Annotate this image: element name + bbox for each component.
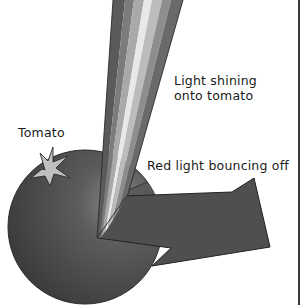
right-border-line xyxy=(298,0,300,305)
diagram-canvas: Light shining onto tomato Red light boun… xyxy=(0,0,307,305)
incoming-light-label-line1: Light shining xyxy=(174,73,257,88)
reflected-light-label: Red light bouncing off xyxy=(147,158,289,173)
incoming-light-label: Light shining onto tomato xyxy=(174,73,257,103)
incoming-light-label-line2: onto tomato xyxy=(174,88,257,103)
tomato-label: Tomato xyxy=(18,125,65,140)
diagram-svg xyxy=(0,0,307,305)
